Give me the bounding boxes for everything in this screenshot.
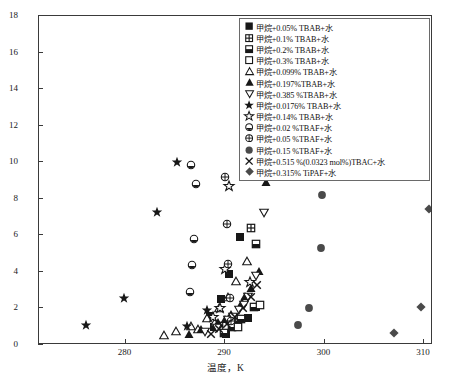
y-tick-label: 14 [0,83,18,93]
legend-item: 甲烷+0.05 %TBAF+水 [243,133,427,144]
data-point [424,204,431,214]
x-tick-label: 300 [317,347,331,357]
legend-item-label: 甲烷+0.05% TBAB+水 [256,21,333,33]
data-point [182,320,193,331]
data-point [246,293,255,302]
data-point [190,234,199,243]
x-tick-mark [125,339,126,344]
legend-item-label: 甲烷+0.315% TiPAF+水 [256,166,336,178]
data-point [231,277,241,286]
legend-item: 甲烷+0.385 %TBAB+水 [243,88,427,99]
legend: 甲烷+0.05% TBAB+水甲烷+0.1% TBAB+水甲烷+0.2% TBA… [239,18,430,181]
legend-item: 甲烷+0.099% TBAB+水 [243,66,427,77]
legend-item: 甲烷+0.05% TBAB+水 [243,21,427,32]
data-point [223,220,232,229]
x-axis-label: 温度，K [0,360,451,374]
y-tick-mark [38,15,43,16]
data-point [207,330,216,339]
x-tick-label: 280 [118,347,132,357]
legend-item: 甲烷+0.3% TBAB+水 [243,55,427,66]
legend-item-label: 甲烷+0.0176% TBAB+水 [256,99,341,111]
x-tick-mark [324,339,325,344]
y-tick-label: 2 [0,302,18,312]
legend-marker-icon [243,67,256,75]
legend-marker-icon [243,90,256,98]
x-tick-mark [423,339,424,344]
data-point [152,207,163,218]
legend-marker-icon [243,123,256,131]
y-tick-label: 12 [0,120,18,130]
legend-item: 甲烷+0.14% TBAB+水 [243,111,427,122]
data-point [235,233,244,242]
legend-item: 甲烷+0.1% TBAB+水 [243,32,427,43]
data-point [416,302,426,312]
x-tick-label: 290 [217,347,231,357]
y-tick-mark [38,52,43,53]
y-tick-mark [38,234,43,235]
legend-item: 甲烷+0.02 %TBAF+水 [243,122,427,133]
y-tick-mark [38,198,43,199]
legend-item: 甲烷+0.515 %(0.0323 mol%)TBAC+水 [243,155,427,166]
legend-item-label: 甲烷+0.1% TBAB+水 [256,32,329,44]
legend-item: 甲烷+0.0176% TBAB+水 [243,99,427,110]
y-tick-label: 8 [0,193,18,203]
data-point [215,325,224,334]
y-tick-label: 16 [0,47,18,57]
legend-item: 甲烷+0.15 %TBAF+水 [243,144,427,155]
data-point [192,180,201,189]
y-tick-label: 10 [0,156,18,166]
data-point [255,300,264,309]
legend-marker-icon [243,100,256,110]
legend-item: 甲烷+0.197%TBAB+水 [243,77,427,88]
data-point [223,319,232,328]
legend-marker-icon [243,157,256,165]
data-point [259,209,269,218]
data-point [251,239,260,248]
legend-item: 甲烷+0.2% TBAB+水 [243,43,427,54]
data-point [186,287,195,296]
x-tick-label: 310 [416,347,430,357]
legend-marker-icon [243,78,256,86]
y-tick-label: 4 [0,266,18,276]
legend-item-label: 甲烷+0.02 %TBAF+水 [256,121,332,133]
x-tick-mark [224,339,225,344]
data-point [187,160,196,169]
data-point [80,319,91,330]
y-tick-mark [38,88,43,89]
legend-marker-icon [243,45,256,53]
legend-marker-icon [243,134,256,142]
data-point [246,224,255,233]
data-point [238,304,247,313]
data-point [304,303,313,312]
legend-item-label: 甲烷+0.099% TBAB+水 [256,65,337,77]
y-tick-label: 18 [0,10,18,20]
legend-marker-icon [243,56,256,64]
legend-marker-icon [243,111,256,121]
legend-item-label: 甲烷+0.05 %TBAF+水 [256,132,332,144]
legend-item-label: 甲烷+0.3% TBAB+水 [256,54,329,66]
legend-marker-icon [243,167,256,176]
data-point [252,280,261,289]
legend-item-label: 甲烷+0.14% TBAB+水 [256,110,333,122]
y-tick-label: 6 [0,229,18,239]
legend-marker-icon [243,34,256,42]
legend-marker-icon [243,146,256,154]
y-tick-mark [38,271,43,272]
data-point [389,328,399,338]
data-point [317,191,326,200]
data-point [226,294,235,303]
data-point [188,261,197,270]
legend-marker-icon [243,22,256,30]
y-tick-mark [38,161,43,162]
y-tick-mark [38,344,43,345]
data-point [159,330,169,339]
data-point [242,256,252,265]
legend-item-label: 甲烷+0.515 %(0.0323 mol%)TBAC+水 [256,155,385,167]
data-point [224,259,233,268]
data-point [208,311,219,322]
legend-item-label: 甲烷+0.197%TBAB+水 [256,77,335,89]
data-point [293,320,302,329]
data-point [172,157,183,168]
y-tick-mark [38,307,43,308]
data-point [231,312,240,321]
